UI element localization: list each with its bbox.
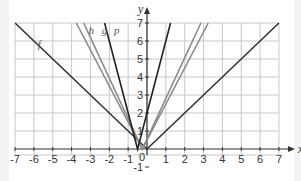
y-tick-label: 6 <box>137 35 143 47</box>
x-tick-label: 6 <box>257 153 263 165</box>
y-tick-label: 2 <box>137 107 143 119</box>
y-tick-label: 5 <box>137 53 143 65</box>
x-tick-label: -1 <box>123 153 133 165</box>
x-tick-label: -3 <box>86 153 96 165</box>
x-tick-label: -2 <box>104 153 114 165</box>
x-tick-label: 1 <box>163 153 169 165</box>
x-tick-label: 4 <box>219 153 225 165</box>
x-axis-label: x <box>297 142 301 156</box>
x-tick-label: 5 <box>238 153 244 165</box>
x-tick-label: 3 <box>200 153 206 165</box>
curve-label-h: h <box>89 24 95 36</box>
x-axis-arrow-icon <box>288 146 295 152</box>
y-tick-label: 7 <box>137 17 143 29</box>
x-tick-label: -4 <box>67 153 77 165</box>
x-tick-label: -5 <box>48 153 58 165</box>
curve-label-p: p <box>113 24 120 36</box>
x-tick-label: -7 <box>10 153 20 165</box>
curve-label-g: g <box>102 24 108 36</box>
y-axis-label: y <box>137 2 144 16</box>
y-tick-label: 4 <box>137 71 143 83</box>
x-tick-label: 7 <box>276 153 282 165</box>
x-tick-label: -6 <box>29 153 39 165</box>
y-tick-label: 3 <box>137 89 143 101</box>
y-tick-label: -1 <box>133 161 143 173</box>
y-axis-arrow-icon <box>144 7 150 14</box>
x-tick-label: 2 <box>182 153 188 165</box>
function-graph: xy-7-6-5-4-3-2-112345670-11234567fhgp <box>0 0 301 181</box>
